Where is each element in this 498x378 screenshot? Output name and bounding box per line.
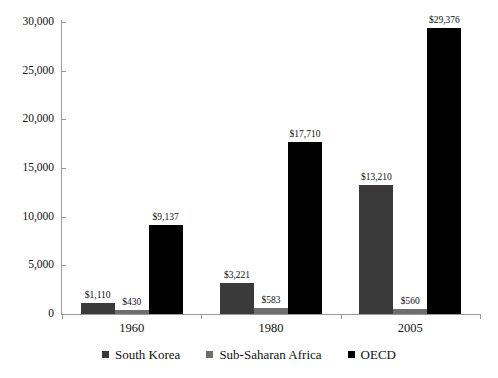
bar-value-label: $13,210 <box>351 173 401 183</box>
y-axis-tick-label: 15,000 <box>0 162 54 174</box>
bar <box>359 185 393 314</box>
y-axis-tick-label: 0 <box>0 308 54 320</box>
x-axis-category-label: 1980 <box>231 322 311 335</box>
legend-swatch-icon <box>348 351 355 358</box>
bar-value-label: $29,376 <box>419 16 469 26</box>
legend-item[interactable]: Sub-Saharan Africa <box>206 348 321 361</box>
bar-value-label: $583 <box>246 296 296 306</box>
x-axis-tick <box>480 315 481 319</box>
legend-item[interactable]: OECD <box>348 348 396 361</box>
y-axis-tick-label: 10,000 <box>0 211 54 223</box>
legend-swatch-icon <box>102 351 109 358</box>
bar-value-label: $9,137 <box>141 213 191 223</box>
legend-item-label: OECD <box>361 348 396 361</box>
y-axis-tick-label: 30,000 <box>0 16 54 28</box>
x-axis-line <box>61 314 481 315</box>
x-axis-tick <box>62 315 63 319</box>
bar-value-label: $3,221 <box>212 271 262 281</box>
x-axis-category-label: 1960 <box>92 322 172 335</box>
plot-area <box>62 22 480 314</box>
bar-chart: 05,00010,00015,00020,00025,00030,000 $1,… <box>0 0 498 378</box>
bar <box>427 28 461 314</box>
legend-item-label: Sub-Saharan Africa <box>219 348 321 361</box>
legend-swatch-icon <box>206 351 213 358</box>
bar-value-label: $430 <box>107 298 157 308</box>
y-axis-tick-label: 20,000 <box>0 113 54 125</box>
bar-value-label: $560 <box>385 297 435 307</box>
bar-value-label: $17,710 <box>280 130 330 140</box>
legend-item[interactable]: South Korea <box>102 348 180 361</box>
bar <box>393 309 427 314</box>
x-axis-tick <box>201 315 202 319</box>
legend-item-label: South Korea <box>115 348 180 361</box>
bar <box>254 308 288 314</box>
x-axis-tick <box>341 315 342 319</box>
y-axis-tick-label: 5,000 <box>0 259 54 271</box>
bar <box>115 310 149 314</box>
y-axis-tick-label: 25,000 <box>0 65 54 77</box>
chart-legend: South KoreaSub-Saharan AfricaOECD <box>0 348 498 361</box>
x-axis-category-label: 2005 <box>370 322 450 335</box>
bar <box>288 142 322 314</box>
